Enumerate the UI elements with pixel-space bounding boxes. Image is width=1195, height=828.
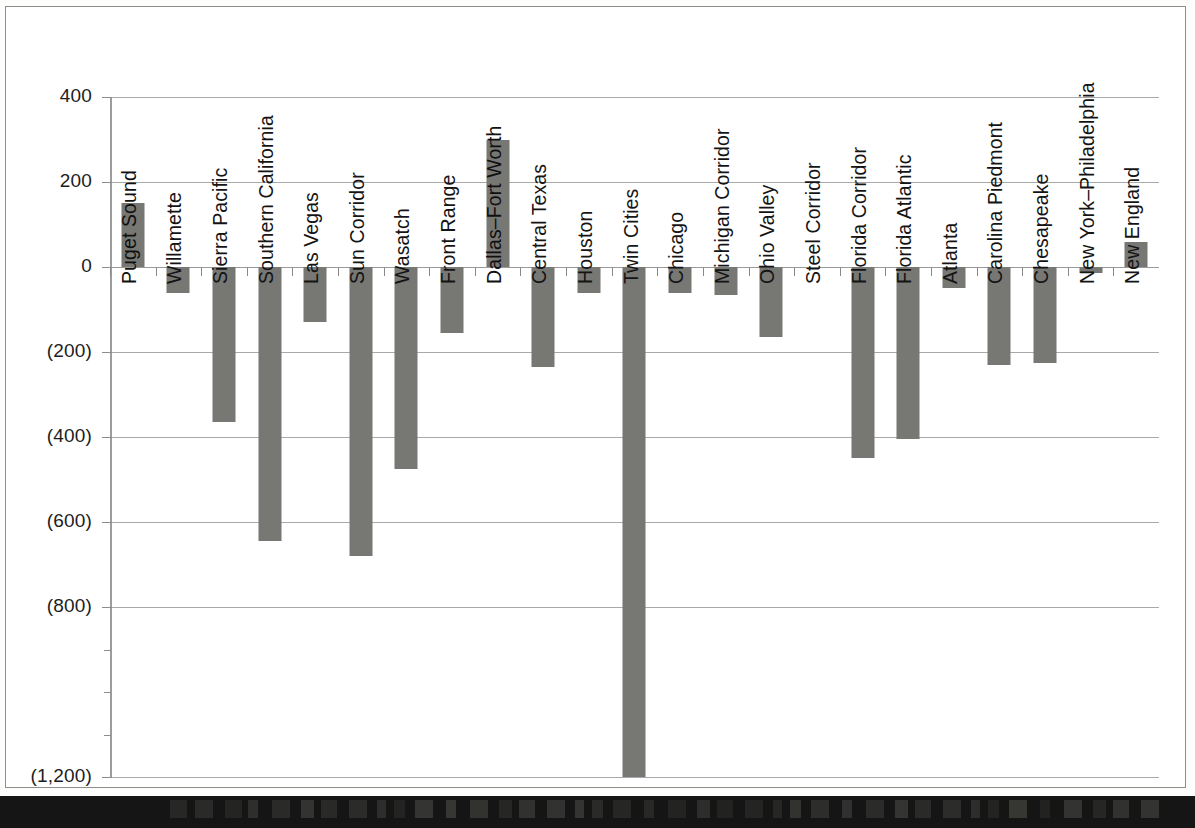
scan-noise	[988, 800, 999, 818]
bar[interactable]	[851, 267, 874, 458]
x-axis-minor-tick	[384, 267, 385, 276]
scan-noise	[547, 800, 565, 818]
scan-noise	[519, 800, 535, 818]
x-axis-minor-tick	[201, 267, 202, 276]
scan-edge-strip	[0, 796, 1195, 828]
y-axis-tick-label: (800)	[0, 595, 92, 617]
scan-noise	[745, 800, 763, 818]
scan-noise	[575, 800, 584, 818]
y-axis-tick-label: (600)	[0, 510, 92, 532]
scan-noise	[613, 800, 631, 818]
y-axis-tick	[102, 267, 112, 268]
scan-noise	[248, 800, 258, 818]
scan-noise	[349, 800, 367, 818]
x-axis-minor-tick	[657, 267, 658, 276]
y-axis-tick	[102, 437, 112, 438]
x-axis-minor-tick	[247, 267, 248, 276]
x-axis-category-label: Wasatch	[391, 208, 414, 284]
x-axis-minor-tick	[885, 267, 886, 276]
scan-noise	[943, 800, 961, 818]
x-axis-minor-tick	[110, 267, 111, 276]
x-axis-category-label: Steel Corridor	[802, 162, 825, 284]
x-axis-minor-tick	[1068, 267, 1069, 276]
x-axis-minor-tick	[156, 267, 157, 276]
bar[interactable]	[897, 267, 920, 439]
y-axis-tick	[102, 182, 112, 183]
scan-noise	[1113, 800, 1129, 818]
scan-noise	[842, 800, 852, 818]
x-axis-category-label: Puget Sound	[118, 170, 141, 284]
x-axis-category-label: Florida Atlantic	[893, 155, 916, 285]
y-axis-tick-label: 400	[0, 85, 92, 107]
scan-noise	[170, 800, 187, 818]
x-axis-category-label: Dallas–Fort Worth	[483, 126, 506, 284]
x-axis-category-label: Carolina Piedmont	[984, 122, 1007, 284]
x-axis-category-label: Central Texas	[528, 164, 551, 284]
x-axis-minor-tick	[1113, 267, 1114, 276]
scan-noise	[915, 800, 931, 818]
y-axis-tick	[102, 522, 112, 523]
x-axis-minor-tick	[429, 267, 430, 276]
scan-noise	[1009, 800, 1027, 818]
scan-noise	[1064, 800, 1082, 818]
scan-noise	[446, 800, 456, 818]
scan-noise	[394, 800, 405, 818]
bar[interactable]	[258, 267, 281, 541]
x-axis-category-label: Chesapeake	[1030, 174, 1053, 285]
y-axis-minor-tick	[104, 735, 111, 736]
x-axis-category-label: New England	[1121, 167, 1144, 284]
y-axis-tick-label: (200)	[0, 340, 92, 362]
x-axis-category-label: Sun Corridor	[346, 172, 369, 284]
scan-noise	[1093, 800, 1106, 818]
bar[interactable]	[395, 267, 418, 469]
scan-noise	[790, 800, 801, 818]
bar[interactable]	[349, 267, 372, 556]
scan-noise	[377, 800, 386, 818]
scan-noise	[895, 800, 908, 818]
x-axis-category-label: Houston	[574, 211, 597, 284]
bar[interactable]	[623, 267, 646, 777]
x-axis-category-label: Chicago	[665, 212, 688, 284]
scan-noise	[866, 800, 884, 818]
y-axis-tick	[102, 97, 112, 98]
scan-noise	[499, 800, 512, 818]
bar-group	[657, 97, 703, 778]
scan-noise	[195, 800, 213, 818]
x-axis-minor-tick	[749, 267, 750, 276]
y-axis-tick	[102, 352, 112, 353]
x-axis-category-label: Ohio Valley	[756, 185, 779, 284]
x-axis-minor-tick	[977, 267, 978, 276]
x-axis-minor-tick	[1022, 267, 1023, 276]
x-axis-minor-tick	[794, 267, 795, 276]
x-axis-minor-tick	[840, 267, 841, 276]
y-axis-tick	[102, 607, 112, 608]
scan-noise	[668, 800, 686, 818]
x-axis-category-label: Front Range	[437, 175, 460, 285]
x-axis-minor-tick	[612, 267, 613, 276]
scan-noise	[415, 800, 433, 818]
scan-noise	[644, 800, 654, 818]
x-axis-category-label: Michigan Corridor	[711, 128, 734, 284]
x-axis-category-label: Atlanta	[939, 223, 962, 284]
x-axis-category-label: Southern California	[255, 115, 278, 284]
y-axis-tick-label: (400)	[0, 425, 92, 447]
scan-noise	[470, 800, 488, 818]
scan-noise	[717, 800, 733, 818]
x-axis-minor-tick	[931, 267, 932, 276]
x-axis-category-label: Willamette	[163, 192, 186, 284]
y-axis-minor-tick	[104, 692, 111, 693]
x-axis-category-label: Twin Cities	[620, 189, 643, 284]
y-axis-tick	[102, 777, 112, 778]
scan-noise	[1040, 800, 1050, 818]
scan-noise	[773, 800, 782, 818]
x-axis-category-label: Las Vegas	[300, 192, 323, 284]
x-axis-category-label: Sierra Pacific	[209, 168, 232, 284]
scan-noise	[321, 800, 337, 818]
x-axis-category-label: New York–Philadelphia	[1076, 82, 1099, 284]
scan-noise	[971, 800, 980, 818]
page-root: 4002000(200)(400)(600)(800)(1,200)(1,400…	[0, 0, 1195, 828]
bar-chart: 4002000(200)(400)(600)(800)(1,200)(1,400…	[0, 0, 1195, 796]
y-axis-minor-tick	[104, 650, 111, 651]
bar[interactable]	[213, 267, 236, 422]
bar-group	[566, 97, 612, 778]
